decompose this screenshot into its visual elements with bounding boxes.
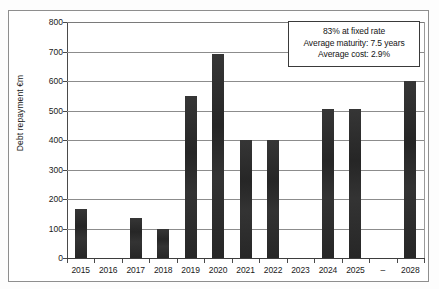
x-tick-label-2017: 2017	[122, 264, 149, 278]
bar-2018	[157, 229, 169, 259]
x-tick-label-2025: 2025	[342, 264, 369, 278]
y-tick-mark-300	[63, 170, 67, 171]
bar-2025	[349, 109, 361, 258]
x-tick-label-2024: 2024	[314, 264, 341, 278]
y-tick-mark-400	[63, 140, 67, 141]
bar-2020	[212, 54, 224, 258]
y-tick-label-600: 600	[33, 76, 63, 86]
x-tick-label-2019: 2019	[177, 264, 204, 278]
x-tick-label-2018: 2018	[149, 264, 176, 278]
x-tick-mark-2019	[177, 259, 178, 263]
x-tick-label-2023: 2023	[287, 264, 314, 278]
y-tick-label-0: 0	[33, 253, 63, 263]
x-tick-mark-–	[369, 259, 370, 263]
x-tick-label-2028: 2028	[397, 264, 424, 278]
x-tick-mark-2020	[204, 259, 205, 263]
bar-slot	[177, 22, 204, 258]
x-tick-mark-2017	[122, 259, 123, 263]
bar-chart: Debt repayment €m 8007006005004003002001…	[0, 0, 439, 289]
bar-2019	[185, 96, 197, 258]
x-tick-mark-2028	[397, 259, 398, 263]
bar-2017	[130, 218, 142, 258]
y-tick-label-500: 500	[33, 106, 63, 116]
y-tick-mark-700	[63, 52, 67, 53]
bar-2028	[404, 81, 416, 258]
y-tick-label-200: 200	[33, 194, 63, 204]
y-tick-mark-0	[63, 258, 67, 259]
bar-slot	[94, 22, 121, 258]
x-axis-tick-labels: 2015201620172018201920202021202220232024…	[67, 264, 424, 278]
y-tick-mark-800	[63, 22, 67, 23]
x-tick-mark-2024	[314, 259, 315, 263]
annotation-box: 83% at fixed rateAverage maturity: 7.5 y…	[288, 21, 420, 67]
y-tick-label-400: 400	[33, 135, 63, 145]
bar-slot	[259, 22, 286, 258]
x-tick-mark-2022	[259, 259, 260, 263]
bar-slot	[67, 22, 94, 258]
y-tick-label-100: 100	[33, 224, 63, 234]
annotation-line-1: 83% at fixed rate	[293, 26, 415, 38]
x-tick-mark-2025	[342, 259, 343, 263]
x-tick-mark-2018	[149, 259, 150, 263]
bar-2024	[322, 109, 334, 258]
bar-slot	[204, 22, 231, 258]
y-tick-mark-600	[63, 81, 67, 82]
y-tick-mark-200	[63, 199, 67, 200]
x-tick-label-2021: 2021	[232, 264, 259, 278]
x-tick-label-2015: 2015	[67, 264, 94, 278]
y-tick-mark-500	[63, 111, 67, 112]
x-tick-mark-2016	[94, 259, 95, 263]
bar-slot	[122, 22, 149, 258]
bar-2021	[240, 140, 252, 258]
y-axis-title: Debt repayment €m	[15, 33, 25, 193]
bar-slot	[149, 22, 176, 258]
y-tick-mark-100	[63, 229, 67, 230]
bar-2022	[267, 140, 279, 258]
chart-page: Debt repayment €m 8007006005004003002001…	[0, 0, 439, 289]
x-tick-mark-2021	[232, 259, 233, 263]
y-tick-label-800: 800	[33, 17, 63, 27]
x-tick-label-2016: 2016	[94, 264, 121, 278]
bar-slot	[232, 22, 259, 258]
x-tick-mark-2015	[67, 259, 68, 263]
y-axis-tick-labels: 8007006005004003002001000	[30, 0, 63, 289]
annotation-line-3: Average cost: 2.9%	[293, 49, 415, 61]
x-tick-label-2022: 2022	[259, 264, 286, 278]
plot-right-border	[424, 22, 425, 259]
x-tick-label-2020: 2020	[204, 264, 231, 278]
bar-2015	[75, 209, 87, 258]
y-tick-label-300: 300	[33, 165, 63, 175]
x-tick-label-–: –	[369, 264, 396, 278]
annotation-line-2: Average maturity: 7.5 years	[293, 38, 415, 50]
x-tick-mark-2023	[287, 259, 288, 263]
y-tick-label-700: 700	[33, 47, 63, 57]
x-axis-tick-mark-end	[424, 259, 425, 263]
